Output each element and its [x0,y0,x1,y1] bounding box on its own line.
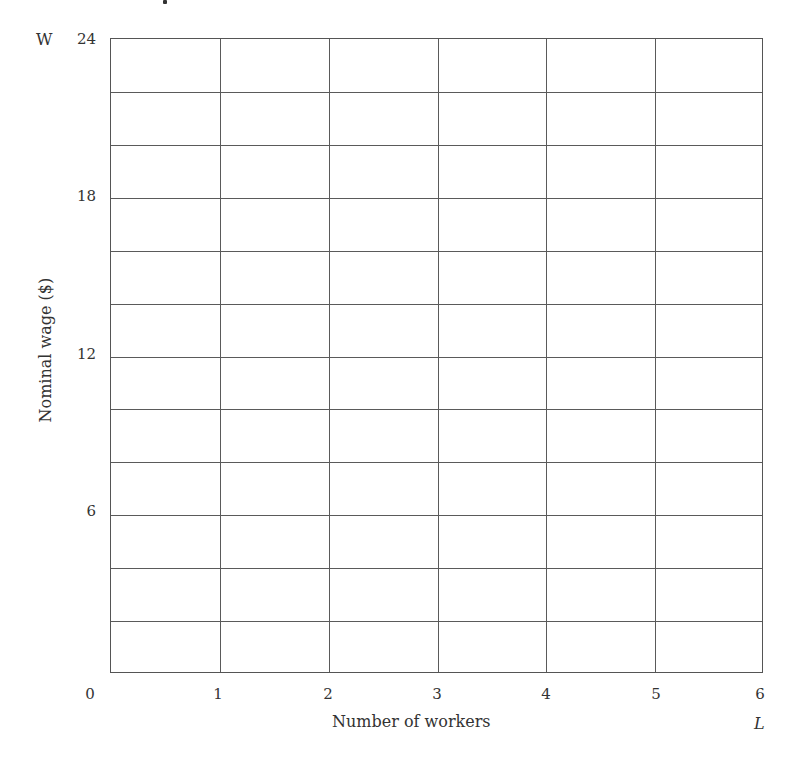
y-tick-label: 12 [56,345,96,363]
origin-label: 0 [75,685,105,703]
grid-hline [111,92,762,93]
grid-hline [111,357,762,358]
x-tick-label: 5 [641,685,671,703]
grid-hline [111,462,762,463]
grid-vline [329,39,330,672]
y-tick-label: 6 [56,502,96,520]
chart-grid [110,38,763,673]
grid-vline [438,39,439,672]
grid-hline [111,251,762,252]
grid-hline [111,145,762,146]
y-axis-title: Nominal wage ($) [36,283,55,423]
grid-hline [111,621,762,622]
x-tick-label: 4 [531,685,561,703]
grid-vline [546,39,547,672]
grid-vline [655,39,656,672]
grid-hline [111,198,762,199]
y-axis-symbol: W [36,30,52,49]
y-tick-label: 24 [56,30,96,48]
grid-vline [220,39,221,672]
grid-hline [111,568,762,569]
x-tick-label: 1 [203,685,233,703]
x-tick-label: 3 [422,685,452,703]
x-tick-label: 2 [313,685,343,703]
x-tick-label: 6 [745,685,775,703]
grid-hline [111,409,762,410]
cropped-text-fragment [163,0,167,4]
x-axis-symbol: L [754,714,765,733]
y-tick-label: 18 [56,187,96,205]
grid-hline [111,515,762,516]
grid-hline [111,304,762,305]
x-axis-title: Number of workers [332,712,491,731]
